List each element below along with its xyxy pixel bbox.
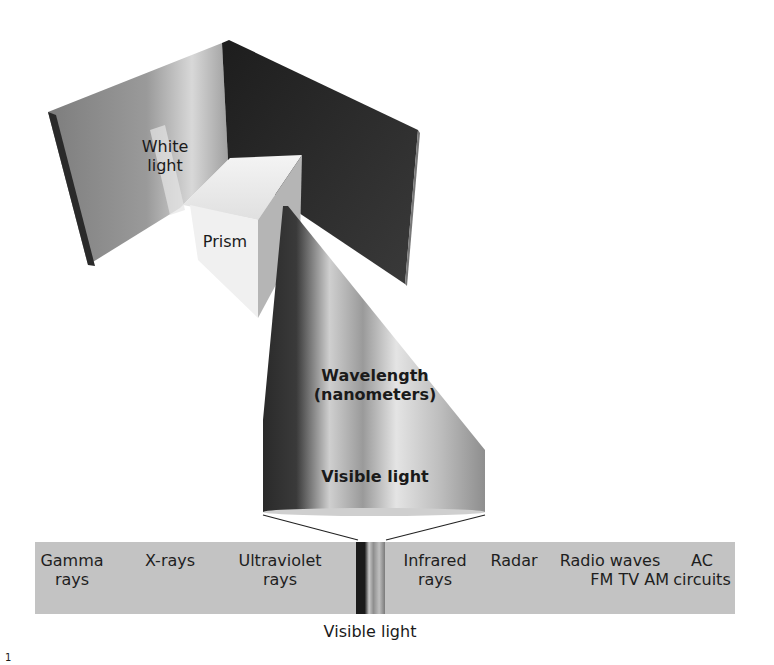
- band-radar: Radar: [484, 551, 544, 570]
- page-number: 1: [5, 652, 11, 663]
- band-radio-line-2: FM TV AM: [551, 570, 669, 589]
- band-ultraviolet-line-2: rays: [225, 570, 335, 589]
- band-infrared-line-2: rays: [390, 570, 480, 589]
- white-light-label: White light: [120, 137, 210, 175]
- spectrum-band: Gamma rays X-rays Ultraviolet rays Infra…: [35, 542, 735, 614]
- band-ac-line-2: circuits: [667, 570, 737, 589]
- band-infrared: Infrared rays: [390, 551, 480, 589]
- prism-label: Prism: [190, 232, 260, 251]
- band-gamma: Gamma rays: [37, 551, 107, 589]
- white-light-line-1: White: [120, 137, 210, 156]
- band-ac-line-1: AC: [667, 551, 737, 570]
- band-gamma-line-2: rays: [37, 570, 107, 589]
- band-gamma-line-1: Gamma: [37, 551, 107, 570]
- white-light-line-2: light: [120, 156, 210, 175]
- band-xrays: X-rays: [130, 551, 210, 570]
- band-radar-line-1: Radar: [484, 551, 544, 570]
- wavelength-line-2: (nanometers): [300, 385, 450, 404]
- wavelength-line-1: Wavelength: [300, 366, 450, 385]
- band-radio: Radio waves FM TV AM: [551, 551, 669, 589]
- band-ultraviolet: Ultraviolet rays: [225, 551, 335, 589]
- wavelength-label: Wavelength (nanometers): [300, 366, 450, 404]
- band-ultraviolet-line-1: Ultraviolet: [225, 551, 335, 570]
- visible-light-cone-label: Visible light: [305, 467, 445, 486]
- visible-light-stripe: [356, 542, 385, 614]
- band-ac: AC circuits: [667, 551, 737, 589]
- band-infrared-line-1: Infrared: [390, 551, 480, 570]
- visible-light-below-label: Visible light: [305, 622, 435, 641]
- band-xrays-line-1: X-rays: [130, 551, 210, 570]
- band-radio-line-1: Radio waves: [551, 551, 669, 570]
